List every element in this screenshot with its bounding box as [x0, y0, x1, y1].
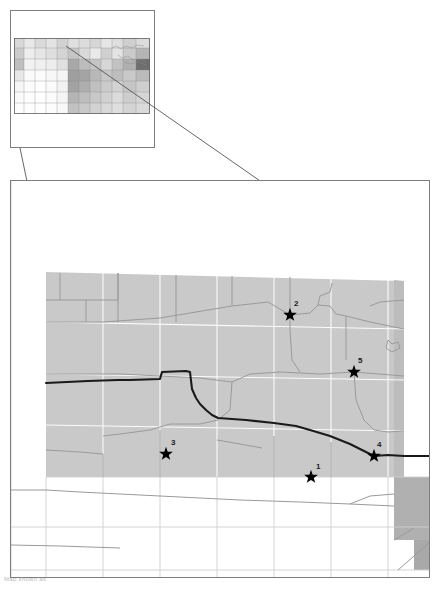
inset-county-cell: [68, 59, 79, 70]
inset-county-cell: [57, 103, 68, 114]
inset-county-cell: [35, 81, 46, 92]
inset-county-cell: [136, 81, 150, 92]
inset-county-cell: [46, 48, 57, 59]
inset-county-cell: [24, 81, 35, 92]
inset-county-cell: [35, 38, 46, 48]
inset-county-cell: [14, 103, 24, 114]
inset-county-cell: [123, 103, 136, 114]
inset-county-cell: [14, 70, 24, 81]
inset-county-cell: [68, 70, 79, 81]
inset-county-cell: [136, 70, 150, 81]
inset-county-choropleth: [14, 38, 150, 114]
inset-county-cell: [90, 92, 101, 103]
inset-county-cell: [24, 92, 35, 103]
inset-county-cell: [57, 70, 68, 81]
inset-county-cell: [90, 38, 101, 48]
inset-county-cell: [136, 38, 150, 48]
inset-county-cell: [68, 81, 79, 92]
site-marker-label-3: 3: [171, 438, 176, 447]
inset-county-cell: [79, 48, 90, 59]
inset-county-cell: [112, 103, 123, 114]
inset-county-cell: [90, 81, 101, 92]
inset-county-cell: [101, 92, 112, 103]
inset-county-cell: [90, 70, 101, 81]
inset-county-cell: [112, 81, 123, 92]
figure-caption: Map shown as: [4, 576, 46, 582]
site-marker-label-4: 4: [377, 440, 382, 449]
inset-county-cell: [123, 59, 136, 70]
detail-map: 12345: [11, 181, 431, 578]
inset-county-cell: [35, 103, 46, 114]
state-overview-inset: [11, 11, 155, 148]
inset-county-cell: [35, 70, 46, 81]
inset-county-cell: [90, 59, 101, 70]
inset-county-cell: [35, 48, 46, 59]
figure-root: 12345 Map shown as: [0, 0, 435, 590]
inset-county-cell: [57, 59, 68, 70]
inset-county-cell: [79, 70, 90, 81]
inset-county-cell: [68, 38, 79, 48]
inset-county-cell: [57, 81, 68, 92]
inset-county-cell: [123, 70, 136, 81]
inset-county-cell: [90, 103, 101, 114]
inset-county-cell: [79, 81, 90, 92]
inset-county-cell: [79, 38, 90, 48]
inset-county-cell: [46, 38, 57, 48]
inset-county-cell: [79, 92, 90, 103]
inset-county-cell: [14, 92, 24, 103]
inset-county-cell: [136, 48, 150, 59]
inset-county-cell: [57, 92, 68, 103]
inset-county-cell: [136, 103, 150, 114]
inset-county-cell: [101, 103, 112, 114]
inset-county-cell: [46, 70, 57, 81]
site-marker-label-1: 1: [316, 462, 321, 471]
inset-county-cell: [46, 103, 57, 114]
study-area-southeast-block: [394, 477, 430, 540]
inset-county-cell: [24, 59, 35, 70]
map-figure-canvas: 12345: [0, 0, 435, 590]
inset-county-cell: [101, 48, 112, 59]
inset-county-cell: [14, 48, 24, 59]
inset-county-cell: [68, 103, 79, 114]
inset-county-cell: [24, 70, 35, 81]
inset-county-cell: [68, 92, 79, 103]
inset-county-cell: [46, 81, 57, 92]
inset-county-cell: [24, 48, 35, 59]
inset-county-cell: [24, 103, 35, 114]
inset-county-cell: [112, 38, 123, 48]
inset-county-cell: [101, 81, 112, 92]
inset-county-cell: [136, 92, 150, 103]
inset-county-cell: [79, 103, 90, 114]
inset-county-cell: [46, 92, 57, 103]
inset-county-cell: [35, 59, 46, 70]
inset-county-cell: [57, 48, 68, 59]
inset-county-cell: [14, 38, 24, 48]
site-marker-label-5: 5: [358, 356, 363, 365]
inset-county-cell: [24, 38, 35, 48]
inset-county-cell: [14, 81, 24, 92]
inset-county-cell: [101, 38, 112, 48]
inset-county-cell: [14, 59, 24, 70]
site-marker-label-2: 2: [294, 299, 299, 308]
inset-county-cell: [46, 59, 57, 70]
inset-county-cell: [79, 59, 90, 70]
inset-county-cell: [112, 92, 123, 103]
inset-county-cell: [35, 92, 46, 103]
inset-county-cell: [112, 59, 123, 70]
inset-county-cell: [90, 48, 101, 59]
inset-county-cell: [101, 59, 112, 70]
